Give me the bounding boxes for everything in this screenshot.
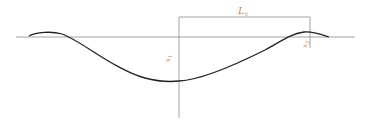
length-label: L0 (237, 5, 248, 17)
wave-diagram: L0 x1 x2 (0, 0, 366, 129)
x2-label: x2 (301, 41, 310, 48)
x1-label: x1 (164, 55, 173, 62)
